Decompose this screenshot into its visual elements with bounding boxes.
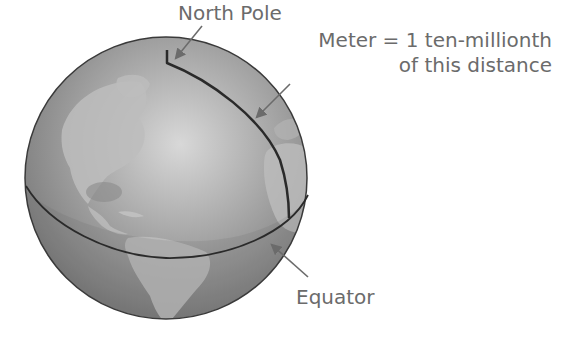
meter-definition-label-line1: Meter = 1 ten-millionth bbox=[318, 29, 552, 51]
globe bbox=[20, 37, 312, 330]
globe-diagram: North Pole Meter = 1 ten-millionth of th… bbox=[0, 0, 572, 339]
equator-label: Equator bbox=[296, 286, 375, 308]
north-pole-label: North Pole bbox=[178, 2, 282, 24]
meter-definition-label-line2: of this distance bbox=[399, 54, 552, 76]
gulf-of-mexico bbox=[86, 182, 122, 202]
